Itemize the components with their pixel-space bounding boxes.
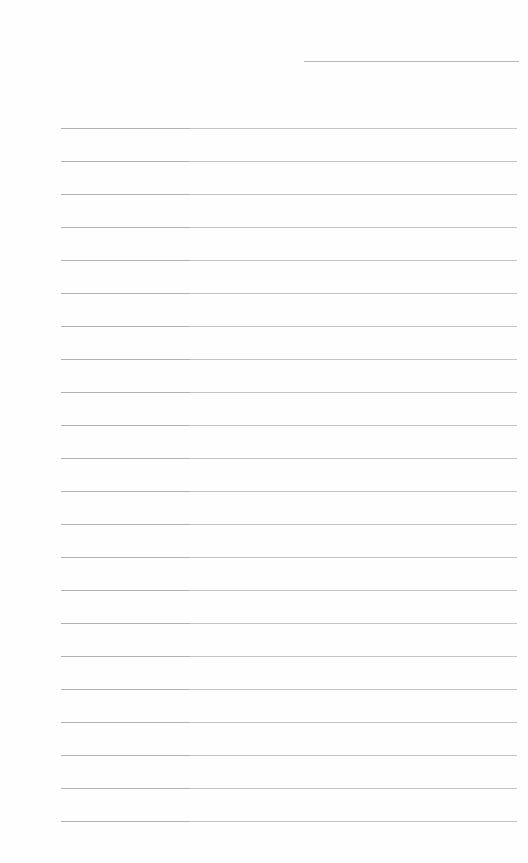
- ruled-lines: [0, 0, 528, 863]
- lined-paper-page: [0, 0, 528, 863]
- ruled-line: [61, 425, 517, 426]
- ruled-line: [61, 623, 517, 624]
- ruled-line: [61, 326, 517, 327]
- ruled-line: [61, 194, 517, 195]
- ruled-line: [61, 293, 517, 294]
- ruled-line: [61, 689, 517, 690]
- ruled-line: [61, 128, 517, 129]
- ruled-line: [61, 260, 517, 261]
- ruled-line: [61, 557, 517, 558]
- ruled-line: [61, 227, 517, 228]
- ruled-line: [61, 755, 517, 756]
- ruled-line: [61, 722, 517, 723]
- ruled-line: [61, 392, 517, 393]
- ruled-line: [61, 491, 517, 492]
- ruled-line: [61, 590, 517, 591]
- ruled-line: [61, 161, 517, 162]
- ruled-line: [61, 359, 517, 360]
- ruled-line: [61, 458, 517, 459]
- ruled-line: [61, 821, 517, 822]
- ruled-line: [61, 788, 517, 789]
- ruled-line: [61, 524, 517, 525]
- ruled-line: [61, 656, 517, 657]
